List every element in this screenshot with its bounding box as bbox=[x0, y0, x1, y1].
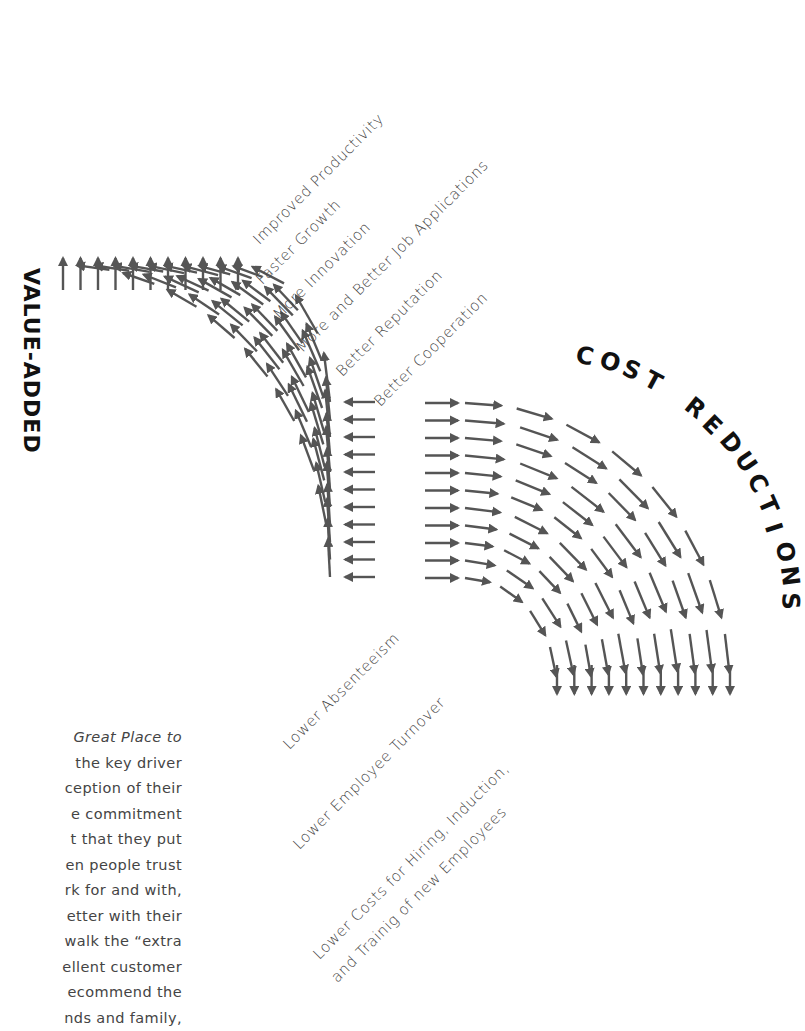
arrow bbox=[167, 290, 196, 307]
body-line: e commitment bbox=[0, 802, 182, 828]
arrow bbox=[690, 634, 695, 673]
arrow bbox=[520, 464, 557, 479]
value-added-title: VALUE-ADDED bbox=[19, 268, 44, 454]
arrow bbox=[208, 315, 234, 338]
arrow bbox=[618, 634, 625, 673]
body-line: the key driver bbox=[0, 751, 182, 777]
arrow bbox=[542, 598, 560, 626]
body-line: walk the “extra bbox=[0, 929, 182, 955]
title-letter: O bbox=[770, 539, 802, 565]
arrow bbox=[276, 389, 294, 421]
body-line: ellent customer bbox=[0, 955, 182, 981]
arrow bbox=[516, 480, 550, 494]
title-letter: S bbox=[618, 354, 645, 387]
arrow bbox=[707, 630, 713, 672]
arrow bbox=[465, 421, 504, 424]
body-line: etter with their bbox=[0, 904, 182, 930]
body-line: t that they put bbox=[0, 827, 182, 853]
cost-reductions-title: COST REDUCTIONS bbox=[560, 360, 774, 620]
body-text: Great Place to the key driver ception of… bbox=[0, 725, 182, 1031]
arrow bbox=[465, 578, 490, 582]
body-line: Great Place to bbox=[0, 725, 182, 751]
arrow bbox=[585, 645, 591, 677]
arrow bbox=[465, 508, 500, 512]
arrow bbox=[602, 639, 608, 674]
arrow bbox=[500, 587, 522, 603]
arrow bbox=[465, 543, 493, 547]
arrow bbox=[517, 409, 552, 419]
body-line: rk for and with, bbox=[0, 878, 182, 904]
arrow bbox=[654, 634, 660, 673]
arrow bbox=[550, 647, 556, 677]
arrow bbox=[231, 325, 257, 352]
arrow bbox=[465, 491, 498, 494]
arrow bbox=[507, 570, 533, 588]
arrow bbox=[245, 349, 267, 377]
arrow bbox=[671, 629, 678, 671]
arrow bbox=[539, 571, 560, 593]
title-letter: N bbox=[775, 565, 805, 589]
arrow bbox=[511, 497, 542, 510]
arrow bbox=[465, 561, 495, 566]
title-letter: T bbox=[752, 492, 784, 518]
arrow bbox=[510, 534, 539, 549]
arrow bbox=[516, 444, 551, 456]
arrow bbox=[465, 456, 504, 460]
title-letter: I bbox=[759, 520, 788, 537]
body-line: ception of their bbox=[0, 776, 182, 802]
title-letter: T bbox=[640, 365, 668, 397]
body-line: en people trust bbox=[0, 853, 182, 879]
arrow bbox=[465, 526, 496, 530]
arrow bbox=[465, 403, 501, 406]
arrow bbox=[520, 427, 557, 440]
arrow bbox=[465, 473, 501, 477]
arrow bbox=[566, 640, 574, 674]
body-line: nds and family, bbox=[0, 1006, 182, 1031]
body-line: ecommend the bbox=[0, 980, 182, 1006]
arrow bbox=[530, 611, 545, 636]
arrow bbox=[210, 278, 240, 295]
arrow bbox=[504, 550, 529, 563]
arrow bbox=[465, 438, 501, 441]
arrow bbox=[637, 638, 643, 674]
arrow bbox=[515, 517, 547, 533]
title-letter: S bbox=[776, 592, 805, 610]
